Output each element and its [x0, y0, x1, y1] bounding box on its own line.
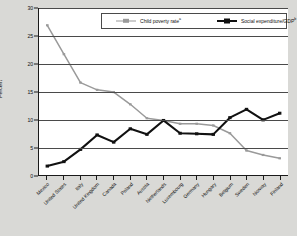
y-axis-title: Percent: [0, 80, 3, 98]
x-axis-tick-mark: [196, 176, 197, 180]
series-data-point: [245, 108, 248, 111]
y-axis-tick-label: 0: [30, 173, 33, 179]
chart-legend: Child poverty rateaSocial expenditure/GD…: [101, 13, 287, 29]
x-axis-tick-label: Poland: [119, 181, 134, 196]
series-data-point: [212, 124, 215, 126]
gridline: [39, 120, 288, 121]
x-axis-tick-label: Hungary: [200, 181, 217, 198]
gridline: [39, 148, 288, 149]
x-axis-tick-mark: [130, 176, 131, 180]
legend-label: Child poverty ratea: [140, 17, 181, 24]
x-axis-tick-label: Norway: [251, 181, 267, 197]
plot-area: [38, 8, 288, 176]
x-axis-tick-mark: [163, 176, 164, 180]
x-axis-tick-label: Italy: [73, 181, 84, 192]
legend-label: Social expenditure/GDPb: [241, 17, 296, 24]
series-data-point: [262, 154, 265, 156]
x-axis-tick-label: Canada: [101, 181, 117, 197]
series-line: [47, 109, 279, 166]
y-axis-tick-label: 30: [27, 5, 33, 11]
gridline: [39, 36, 288, 37]
x-axis-tick-mark: [180, 176, 181, 180]
series-data-point: [46, 165, 49, 168]
legend-swatch-icon: [217, 17, 237, 25]
y-axis-tick-label: 15: [27, 89, 33, 95]
series-data-point: [212, 133, 215, 136]
y-axis-tick-label: 25: [27, 33, 33, 39]
x-axis-tick-mark: [146, 176, 147, 180]
x-axis-tick-label: Belgium: [217, 181, 234, 198]
legend-swatch-icon: [116, 17, 136, 25]
x-axis-tick-mark: [63, 176, 64, 180]
series-data-point: [146, 117, 149, 119]
x-axis-tick-mark: [113, 176, 114, 180]
series-data-point: [95, 133, 98, 136]
x-axis-tick-mark: [80, 176, 81, 180]
x-axis-tick-label: Germany: [182, 181, 201, 200]
x-axis-tick-label: Sweden: [234, 181, 251, 198]
series-data-point: [278, 157, 281, 159]
legend-entry[interactable]: Child poverty ratea: [116, 17, 181, 25]
x-axis-tick-label: Finland: [268, 181, 284, 197]
legend-entry[interactable]: Social expenditure/GDPb: [217, 17, 296, 25]
series-data-point: [62, 160, 65, 163]
series-data-point: [63, 53, 66, 55]
x-axis-tick-mark: [46, 176, 47, 180]
series-data-point: [96, 89, 99, 91]
series-data-point: [79, 81, 82, 83]
gridline: [39, 64, 288, 65]
series-data-point: [278, 112, 281, 115]
series-data-point: [245, 149, 248, 151]
x-axis-tick-mark: [280, 176, 281, 180]
x-axis-tick-mark: [96, 176, 97, 180]
series-data-point: [112, 141, 115, 144]
x-axis-tick-mark: [263, 176, 264, 180]
y-axis: Percent 051015202530: [0, 0, 38, 184]
y-axis-tick-label: 20: [27, 61, 33, 67]
x-axis-tick-mark: [213, 176, 214, 180]
x-axis-tick-mark: [230, 176, 231, 180]
series-data-point: [195, 132, 198, 135]
series-data-point: [129, 127, 132, 130]
gridline: [39, 8, 288, 9]
series-data-point: [228, 116, 231, 119]
series-data-point: [129, 103, 132, 105]
series-data-point: [178, 132, 181, 135]
y-axis-tick-label: 5: [30, 145, 33, 151]
series-data-point: [46, 24, 49, 26]
series-data-point: [195, 123, 198, 125]
series-data-point: [145, 133, 148, 136]
y-axis-tick-label: 10: [27, 117, 33, 123]
series-data-point: [229, 132, 232, 134]
series-data-point: [179, 123, 182, 125]
chart-figure: Percent 051015202530 MexicoUnited States…: [0, 0, 297, 236]
x-axis-tick-mark: [246, 176, 247, 180]
gridline: [39, 92, 288, 93]
